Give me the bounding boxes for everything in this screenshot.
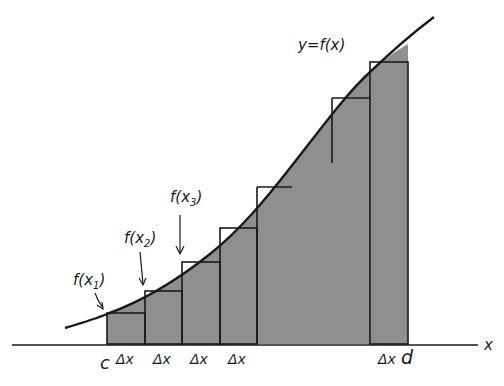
- label-f-x3: f(x3): [170, 188, 202, 208]
- label-f-x2: f(x2): [124, 229, 156, 249]
- arrow-f-x2: [140, 252, 143, 284]
- riemann-sum-diagram: y=f(x) f(x1) f(x2) f(x3) x c Δx Δx Δx Δx…: [0, 0, 504, 386]
- label-f-x1: f(x1): [73, 271, 105, 291]
- label-delta-x-2: Δx: [152, 351, 172, 367]
- diagram-canvas: y=f(x) f(x1) f(x2) f(x3) x c Δx Δx Δx Δx…: [0, 0, 504, 386]
- label-delta-x-3: Δx: [189, 351, 209, 367]
- label-c: c: [100, 352, 110, 373]
- label-delta-x-4: Δx: [227, 351, 247, 367]
- axis-label-x: x: [483, 336, 493, 354]
- label-delta-x-1: Δx: [115, 351, 135, 367]
- label-d: d: [401, 346, 414, 368]
- label-delta-x-n: Δx: [377, 351, 397, 367]
- curve-label: y=f(x): [297, 36, 345, 54]
